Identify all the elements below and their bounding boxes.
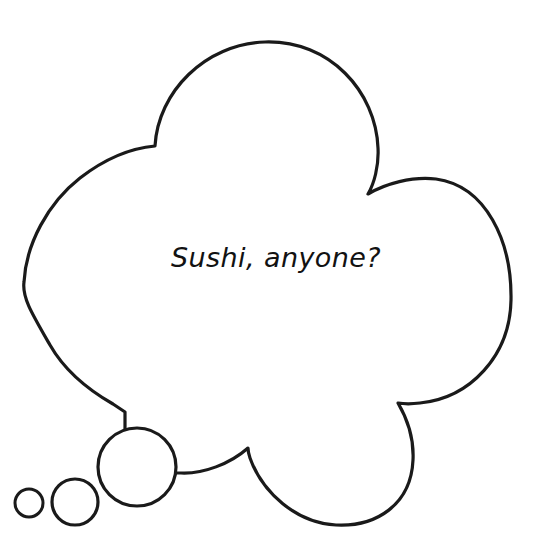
thought-bubble-canvas: Sushi, anyone?: [0, 0, 552, 557]
cloud-outline-path: [24, 42, 511, 525]
medium-trail-bubble: [52, 479, 98, 525]
bubble-text: Sushi, anyone?: [0, 241, 552, 275]
thought-bubble-graphic: [0, 0, 552, 557]
large-trail-bubble: [98, 428, 176, 506]
small-trail-bubble: [15, 489, 43, 517]
